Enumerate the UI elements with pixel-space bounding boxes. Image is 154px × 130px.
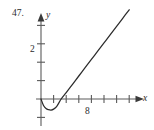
y-axis-arrowhead	[38, 13, 45, 22]
curve-line	[41, 10, 129, 110]
x-axis-label: x	[143, 94, 147, 104]
graph-canvas	[0, 0, 154, 130]
y-axis-label: y	[46, 11, 50, 21]
exercise-number: 47.	[12, 9, 24, 19]
x-tick-label-8: 8	[85, 107, 90, 117]
y-tick-label-2: 2	[30, 45, 35, 55]
figure-container: 47. y x 2 8	[0, 0, 154, 130]
